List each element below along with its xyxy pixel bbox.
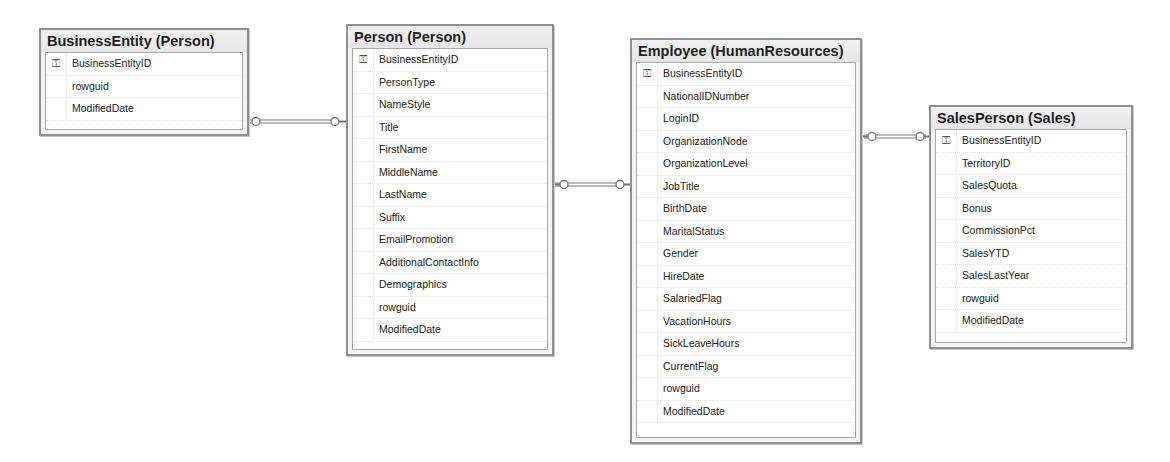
column-row[interactable]: NationalIDNumber xyxy=(637,86,855,109)
primary-key-icon: ⚿ xyxy=(637,63,658,85)
row-selector xyxy=(353,72,374,94)
column-row[interactable]: SalesQuota xyxy=(936,175,1126,198)
column-list: ⚿BusinessEntityIDrowguidModifiedDate xyxy=(45,52,243,130)
table-business-entity[interactable]: BusinessEntity (Person) ⚿BusinessEntityI… xyxy=(39,28,249,136)
column-row[interactable]: Suffix xyxy=(353,207,547,230)
column-row[interactable]: ⚿BusinessEntityID xyxy=(46,53,242,76)
relationship-employee-salesperson[interactable] xyxy=(862,133,930,141)
column-row[interactable]: SalariedFlag xyxy=(637,288,855,311)
column-row[interactable]: HireDate xyxy=(637,266,855,289)
table-title[interactable]: SalesPerson (Sales) xyxy=(931,107,1131,129)
table-sales-person[interactable]: SalesPerson (Sales) ⚿BusinessEntityIDTer… xyxy=(929,105,1133,349)
column-list: ⚿BusinessEntityIDNationalIDNumberLoginID… xyxy=(636,62,856,438)
column-row[interactable]: rowguid xyxy=(46,76,242,99)
column-name: Gender xyxy=(663,243,698,265)
primary-key-icon: ⚿ xyxy=(936,130,957,152)
column-row[interactable]: NameStyle xyxy=(353,94,547,117)
column-row[interactable]: ModifiedDate xyxy=(936,310,1126,333)
column-name: PersonType xyxy=(379,72,435,94)
row-selector xyxy=(936,220,957,242)
column-name: SalariedFlag xyxy=(663,288,722,310)
column-row[interactable]: MaritalStatus xyxy=(637,221,855,244)
relationship-person-employee[interactable] xyxy=(553,181,630,189)
column-row[interactable]: OrganizationNode xyxy=(637,131,855,154)
column-row[interactable]: Title xyxy=(353,117,547,140)
table-title[interactable]: Person (Person) xyxy=(348,26,552,48)
column-row[interactable]: LoginID xyxy=(637,108,855,131)
row-selector xyxy=(353,94,374,116)
column-row[interactable]: OrganizationLevel xyxy=(637,153,855,176)
row-selector xyxy=(637,243,658,265)
column-name: ModifiedDate xyxy=(379,319,441,341)
row-selector xyxy=(936,175,957,197)
column-row[interactable]: FirstName xyxy=(353,139,547,162)
column-row[interactable]: JobTitle xyxy=(637,176,855,199)
row-selector xyxy=(353,117,374,139)
column-row[interactable]: Bonus xyxy=(936,198,1126,221)
row-selector xyxy=(637,108,658,130)
column-row[interactable]: CommissionPct xyxy=(936,220,1126,243)
column-row[interactable]: VacationHours xyxy=(637,311,855,334)
column-row[interactable]: CurrentFlag xyxy=(637,356,855,379)
column-row[interactable]: Gender xyxy=(637,243,855,266)
column-name: CurrentFlag xyxy=(663,356,718,378)
row-selector xyxy=(637,401,658,423)
column-name: FirstName xyxy=(379,139,427,161)
column-row[interactable]: SalesYTD xyxy=(936,243,1126,266)
column-row[interactable]: ⚿BusinessEntityID xyxy=(936,130,1126,153)
table-person[interactable]: Person (Person) ⚿BusinessEntityIDPersonT… xyxy=(346,24,554,356)
column-row[interactable]: rowguid xyxy=(637,378,855,401)
column-row[interactable]: rowguid xyxy=(936,288,1126,311)
column-row[interactable]: SalesLastYear xyxy=(936,265,1126,288)
column-name: BusinessEntityID xyxy=(962,130,1041,152)
column-row[interactable]: MiddleName xyxy=(353,162,547,185)
row-selector xyxy=(637,131,658,153)
column-row[interactable]: SickLeaveHours xyxy=(637,333,855,356)
column-name: SickLeaveHours xyxy=(663,333,739,355)
column-name: rowguid xyxy=(962,288,999,310)
column-name: OrganizationNode xyxy=(663,131,748,153)
row-selector xyxy=(637,333,658,355)
column-row[interactable]: ModifiedDate xyxy=(46,98,242,121)
column-row[interactable]: PersonType xyxy=(353,72,547,95)
row-selector xyxy=(637,288,658,310)
column-name: JobTitle xyxy=(663,176,699,198)
column-row[interactable]: TerritoryID xyxy=(936,153,1126,176)
column-name: rowguid xyxy=(72,76,109,98)
column-row[interactable]: ModifiedDate xyxy=(353,319,547,342)
column-name: BusinessEntityID xyxy=(663,63,742,85)
column-row[interactable]: LastName xyxy=(353,184,547,207)
table-employee[interactable]: Employee (HumanResources) ⚿BusinessEntit… xyxy=(630,38,862,444)
column-name: NameStyle xyxy=(379,94,430,116)
row-selector xyxy=(637,198,658,220)
column-name: BusinessEntityID xyxy=(72,53,151,75)
column-row[interactable]: rowguid xyxy=(353,297,547,320)
row-selector xyxy=(46,98,67,120)
column-name: CommissionPct xyxy=(962,220,1035,242)
row-selector xyxy=(936,243,957,265)
row-selector xyxy=(936,265,957,287)
column-list: ⚿BusinessEntityIDTerritoryIDSalesQuotaBo… xyxy=(935,129,1127,343)
column-name: Demographics xyxy=(379,274,447,296)
row-selector xyxy=(637,356,658,378)
column-row[interactable]: Demographics xyxy=(353,274,547,297)
primary-key-icon: ⚿ xyxy=(46,53,67,75)
table-title[interactable]: BusinessEntity (Person) xyxy=(41,30,247,52)
row-selector xyxy=(637,221,658,243)
row-selector xyxy=(46,76,67,98)
column-row[interactable]: EmailPromotion xyxy=(353,229,547,252)
row-selector xyxy=(353,139,374,161)
row-selector xyxy=(353,229,374,251)
row-selector xyxy=(353,207,374,229)
column-name: rowguid xyxy=(379,297,416,319)
relationship-businessentity-person[interactable] xyxy=(248,118,346,126)
row-selector xyxy=(936,288,957,310)
column-row[interactable]: ⚿BusinessEntityID xyxy=(353,49,547,72)
column-row[interactable]: BirthDate xyxy=(637,198,855,221)
column-row[interactable]: ⚿BusinessEntityID xyxy=(637,63,855,86)
column-row[interactable]: ModifiedDate xyxy=(637,401,855,424)
column-name: BusinessEntityID xyxy=(379,49,458,71)
column-name: VacationHours xyxy=(663,311,731,333)
table-title[interactable]: Employee (HumanResources) xyxy=(632,40,860,62)
column-row[interactable]: AdditionalContactInfo xyxy=(353,252,547,275)
